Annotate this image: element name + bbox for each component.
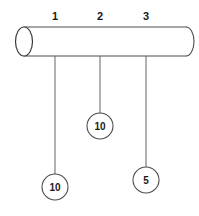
hanger-2-weight-label: 10 [94, 121, 106, 132]
tick-label-1: 1 [52, 10, 58, 22]
diagram-canvas: 1 2 3 10 10 5 [0, 0, 199, 216]
hanger-3-weight-label: 5 [143, 175, 149, 186]
cylinder-weights-diagram: 1 2 3 10 10 5 [0, 0, 199, 216]
hanger-1-weight-label: 10 [49, 182, 61, 193]
rod-left-open-ellipse [16, 27, 33, 56]
tick-label-3: 3 [143, 10, 149, 22]
tick-label-2: 2 [97, 10, 103, 22]
